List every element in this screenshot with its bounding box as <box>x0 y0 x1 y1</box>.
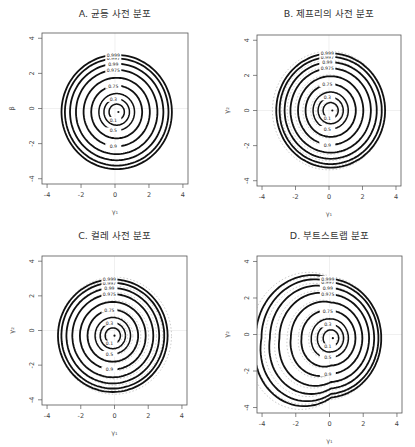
svg-text:0.99: 0.99 <box>104 286 114 291</box>
svg-text:0.75: 0.75 <box>323 309 333 314</box>
svg-text:0.3: 0.3 <box>324 95 331 100</box>
panel-title: D. 부트스트랩 분포 <box>257 228 402 242</box>
panel-title: A. 균등 사전 분포 <box>42 6 188 20</box>
svg-text:-2: -2 <box>28 140 36 146</box>
svg-text:-4: -4 <box>44 191 50 199</box>
svg-text:-4: -4 <box>259 193 265 201</box>
svg-text:4: 4 <box>28 259 36 263</box>
contour-line <box>65 59 169 166</box>
svg-text:0.3: 0.3 <box>106 321 113 326</box>
svg-text:0.3: 0.3 <box>324 322 331 327</box>
svg-text:0: 0 <box>243 332 251 336</box>
svg-text:0.5: 0.5 <box>324 355 331 360</box>
svg-text:-4: -4 <box>28 397 36 403</box>
svg-text:γ₁: γ₁ <box>112 208 119 216</box>
svg-text:2: 2 <box>28 294 36 298</box>
svg-text:0.1: 0.1 <box>324 344 331 349</box>
svg-text:0.9: 0.9 <box>324 372 331 377</box>
svg-text:0.75: 0.75 <box>108 84 118 89</box>
svg-text:2: 2 <box>360 193 364 201</box>
svg-text:0.1: 0.1 <box>324 116 331 121</box>
contour-line <box>76 70 157 154</box>
svg-text:0: 0 <box>112 412 116 420</box>
svg-text:0.999: 0.999 <box>321 277 334 282</box>
svg-text:γ₁: γ₁ <box>111 429 118 437</box>
contour-line <box>72 294 153 377</box>
contour-plot-d: 0.10.30.50.750.90.9750.990.9970.999-4-20… <box>221 252 408 447</box>
panel-title: B. 제프리의 사전 분포 <box>257 6 401 20</box>
svg-text:0.999: 0.999 <box>103 277 116 282</box>
svg-text:0.75: 0.75 <box>104 308 114 313</box>
svg-text:-2: -2 <box>243 368 251 374</box>
svg-text:γ₂: γ₂ <box>223 331 231 338</box>
svg-text:0.1: 0.1 <box>110 118 117 123</box>
svg-text:-2: -2 <box>78 412 84 420</box>
svg-text:0.99: 0.99 <box>322 60 332 65</box>
svg-text:0.999: 0.999 <box>321 51 334 56</box>
svg-text:0.975: 0.975 <box>321 66 334 71</box>
svg-text:2: 2 <box>361 420 365 428</box>
svg-text:-2: -2 <box>292 193 298 201</box>
svg-text:-4: -4 <box>259 420 265 428</box>
svg-text:-2: -2 <box>78 191 84 199</box>
svg-text:0.99: 0.99 <box>323 286 333 291</box>
svg-text:2: 2 <box>243 73 251 77</box>
svg-text:4: 4 <box>394 193 398 201</box>
svg-text:0.1: 0.1 <box>106 341 113 346</box>
svg-text:β: β <box>8 106 16 110</box>
svg-text:0.9: 0.9 <box>110 144 117 149</box>
svg-text:2: 2 <box>243 296 251 300</box>
svg-text:0.75: 0.75 <box>322 82 332 87</box>
svg-text:0: 0 <box>113 191 117 199</box>
svg-text:γ₂: γ₂ <box>223 107 231 114</box>
panel-title: C. 컬레 사전 분포 <box>42 228 187 242</box>
svg-text:0.5: 0.5 <box>106 352 113 357</box>
svg-text:γ₁: γ₁ <box>326 437 333 445</box>
contour-plot-b: 0.10.30.50.750.90.9750.990.9970.999-4-20… <box>221 31 407 220</box>
contour-plot-c: 0.10.30.50.750.90.9750.990.9970.999-4-20… <box>6 252 193 439</box>
svg-text:-4: -4 <box>44 412 50 420</box>
svg-text:0: 0 <box>28 106 36 110</box>
svg-text:-2: -2 <box>293 420 299 428</box>
svg-text:0: 0 <box>327 193 331 201</box>
svg-text:4: 4 <box>181 191 185 199</box>
svg-text:2: 2 <box>146 412 150 420</box>
svg-text:0.9: 0.9 <box>106 367 113 372</box>
svg-text:2: 2 <box>147 191 151 199</box>
svg-text:4: 4 <box>243 38 251 42</box>
svg-text:γ₁: γ₁ <box>326 210 333 218</box>
svg-text:-2: -2 <box>243 142 251 148</box>
contour-plot-a: 0.10.30.50.750.90.9750.990.9970.999-4-20… <box>6 29 194 218</box>
svg-text:4: 4 <box>243 259 251 263</box>
svg-text:4: 4 <box>395 420 399 428</box>
svg-text:4: 4 <box>180 412 184 420</box>
contour-line <box>261 279 379 401</box>
svg-text:-4: -4 <box>243 177 251 183</box>
svg-text:γ₂: γ₂ <box>8 327 16 334</box>
svg-text:-2: -2 <box>28 362 36 368</box>
svg-text:-4: -4 <box>243 404 251 410</box>
svg-text:0.999: 0.999 <box>107 53 120 58</box>
svg-text:0: 0 <box>28 328 36 332</box>
svg-text:0.9: 0.9 <box>324 143 331 148</box>
svg-text:0.5: 0.5 <box>110 128 117 133</box>
svg-text:0.99: 0.99 <box>108 62 118 67</box>
svg-text:0: 0 <box>327 420 331 428</box>
svg-text:0.975: 0.975 <box>107 68 120 73</box>
svg-text:4: 4 <box>28 36 36 40</box>
svg-text:0.5: 0.5 <box>324 127 331 132</box>
svg-text:0: 0 <box>243 108 251 112</box>
svg-text:2: 2 <box>28 71 36 75</box>
svg-text:0.975: 0.975 <box>103 292 116 297</box>
svg-text:-4: -4 <box>28 175 36 181</box>
svg-text:0.3: 0.3 <box>110 97 117 102</box>
svg-text:0.975: 0.975 <box>321 292 334 297</box>
